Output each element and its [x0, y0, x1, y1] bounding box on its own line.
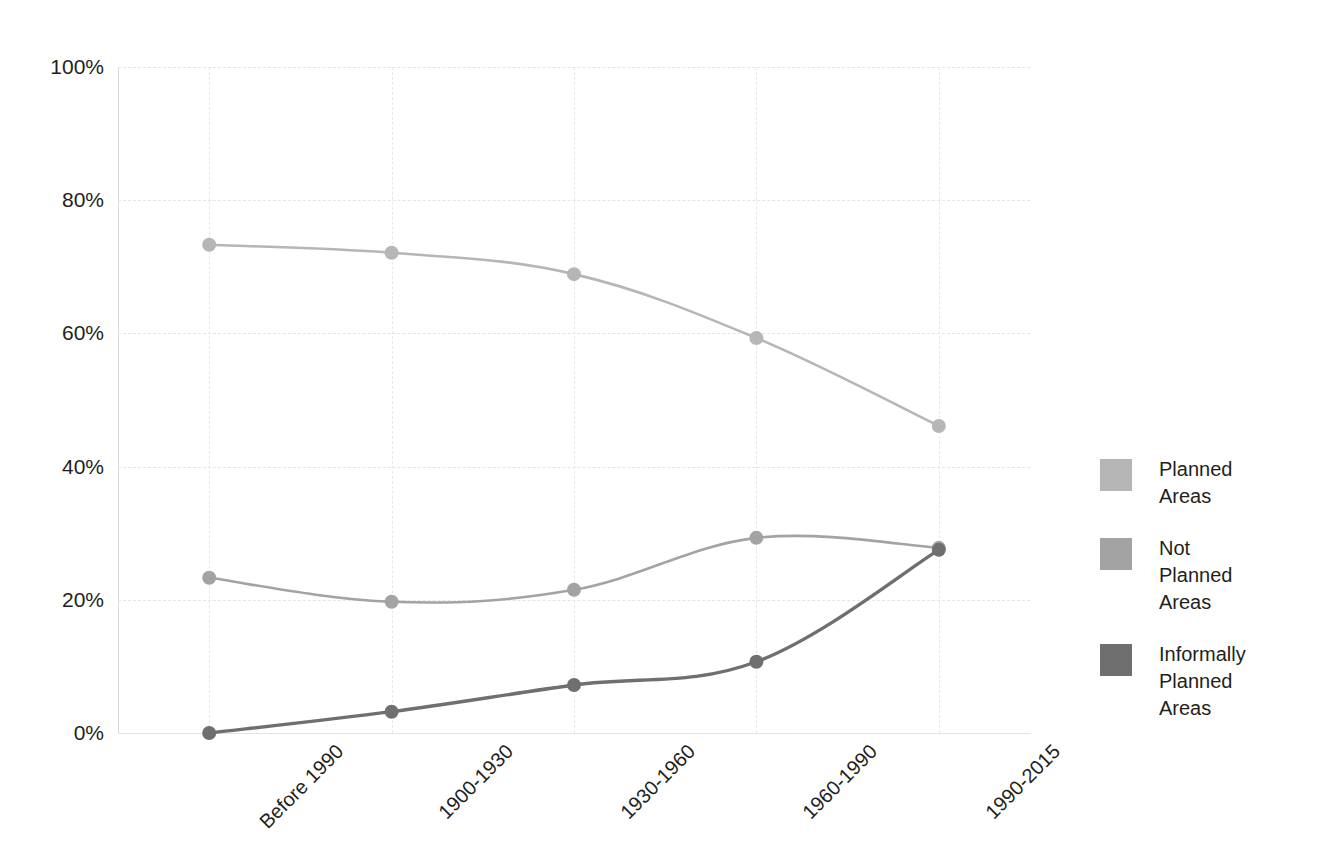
legend-label: Informally Planned Areas [1159, 641, 1246, 722]
gridline-vertical [756, 67, 757, 733]
y-axis-tick-label: 60% [4, 322, 104, 343]
x-axis-tick-label: 1930-1960 [616, 740, 699, 823]
gridline-horizontal [118, 733, 1030, 734]
legend-swatch-icon [1100, 538, 1132, 570]
y-axis-tick-label: 20% [4, 589, 104, 610]
gridline-vertical [392, 67, 393, 733]
y-axis-ticks: 0%20%40%60%80%100% [0, 67, 104, 733]
y-axis-tick-label: 0% [4, 722, 104, 743]
legend-item[interactable]: Not Planned Areas [1100, 538, 1325, 616]
legend-swatch-icon [1100, 644, 1132, 676]
line-chart: 0%20%40%60%80%100% Before 19901900-19301… [0, 0, 1335, 868]
x-axis-tick-label: Before 1990 [255, 740, 348, 833]
legend-label: Not Planned Areas [1159, 535, 1232, 616]
gridline-vertical [939, 67, 940, 733]
y-axis-tick-label: 100% [4, 56, 104, 77]
legend-item[interactable]: Informally Planned Areas [1100, 644, 1325, 722]
x-axis-ticks: Before 19901900-19301930-19601960-199019… [118, 740, 1030, 860]
chart-legend: Planned AreasNot Planned AreasInformally… [1100, 459, 1325, 750]
plot-area [118, 67, 1030, 733]
legend-label: Planned Areas [1159, 456, 1232, 510]
y-axis-tick-label: 80% [4, 189, 104, 210]
y-axis-tick-label: 40% [4, 456, 104, 477]
x-axis-tick-label: 1990-2015 [981, 740, 1064, 823]
gridline-vertical [574, 67, 575, 733]
legend-swatch-icon [1100, 459, 1132, 491]
legend-item[interactable]: Planned Areas [1100, 459, 1325, 510]
gridline-vertical [209, 67, 210, 733]
x-axis-tick-label: 1900-1930 [434, 740, 517, 823]
x-axis-tick-label: 1960-1990 [798, 740, 881, 823]
